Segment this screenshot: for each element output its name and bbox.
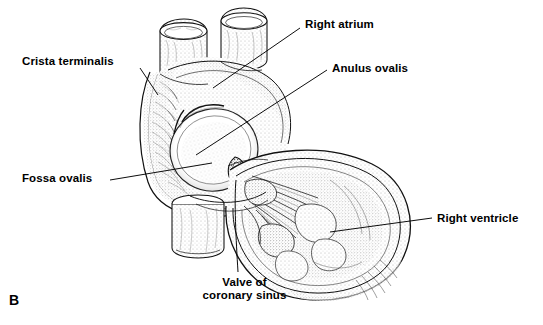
label-valve-of-coronary-sinus: Valve of coronary sinus	[192, 276, 297, 302]
inferior-vena-cava-stump	[172, 195, 224, 258]
panel-letter: B	[9, 292, 19, 308]
label-crista-terminalis: Crista terminalis	[22, 55, 114, 68]
label-fossa-ovalis: Fossa ovalis	[22, 172, 92, 185]
label-anulus-ovalis: Anulus ovalis	[332, 62, 408, 75]
figure-panel: Crista terminalis Right atrium Anulus ov…	[0, 0, 543, 325]
label-right-ventricle: Right ventricle	[437, 212, 518, 225]
label-right-atrium: Right atrium	[305, 18, 374, 31]
